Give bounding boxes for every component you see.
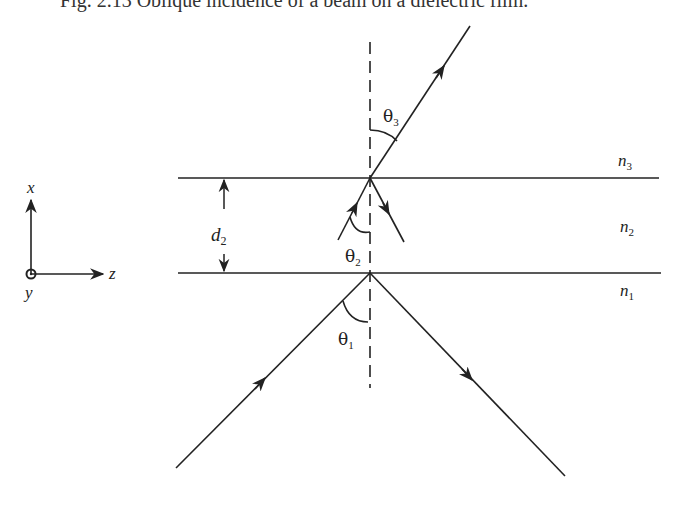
z-axis-label: z	[108, 264, 116, 283]
theta3-arc	[370, 130, 397, 141]
medium-n3-label: n3	[618, 151, 633, 172]
transmitted-ray-arrow	[436, 66, 444, 78]
theta1-label: θ1	[338, 329, 354, 351]
theta1-arc	[343, 301, 368, 322]
theta2-arc	[350, 217, 370, 232]
coordinate-axes: x z y	[23, 178, 116, 302]
transmitted-ray	[370, 26, 470, 178]
film-diagram: x z y d2 θ1 θ2 θ3 n3 n	[0, 0, 687, 505]
theta3-label: θ3	[383, 106, 399, 128]
medium-n1-label: n1	[620, 281, 634, 302]
x-axis-label: x	[26, 178, 35, 197]
film-upward-ray-arrow	[352, 203, 357, 213]
incident-ray	[176, 273, 370, 468]
theta2-label: θ2	[345, 246, 361, 268]
thickness-label: d2	[211, 224, 227, 248]
thickness-dimension: d2	[211, 180, 227, 271]
y-axis-label: y	[23, 283, 33, 302]
film-reflected-ray-arrow	[383, 203, 389, 214]
medium-n2-label: n2	[620, 217, 634, 238]
incident-ray-arrow	[255, 378, 265, 389]
reflected-ray-arrow	[462, 369, 472, 380]
